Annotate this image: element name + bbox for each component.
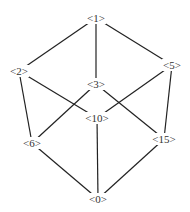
edge-15-0 <box>98 139 164 199</box>
edge-1-5 <box>96 18 172 65</box>
edge-layer <box>0 0 190 212</box>
node-5: <5> <box>162 59 182 71</box>
edge-6-0 <box>32 143 98 199</box>
edge-1-2 <box>19 18 96 71</box>
edge-5-15 <box>164 65 172 139</box>
node-3: <3> <box>86 78 106 90</box>
edge-5-10 <box>97 65 172 118</box>
node-1: <1> <box>86 12 106 24</box>
edge-2-6 <box>19 71 32 143</box>
node-10: <10> <box>84 112 109 124</box>
node-6: <6> <box>22 137 42 149</box>
node-2: <2> <box>9 65 29 77</box>
node-15: <15> <box>151 133 176 145</box>
lattice-diagram: <1> <2> <5> <3> <10> <6> <15> <0> <box>0 0 190 212</box>
node-0: <0> <box>88 193 108 205</box>
edge-10-0 <box>97 118 98 199</box>
